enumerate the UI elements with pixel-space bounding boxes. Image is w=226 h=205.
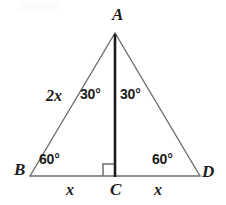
side-label-bc: x — [66, 182, 74, 198]
side-label-ab: 2x — [46, 88, 62, 104]
geometry-diagram: A B C D 30° 30° 60° 60° 2x x x — [0, 0, 226, 205]
vertex-label-d: D — [202, 163, 214, 180]
vertex-label-a: A — [112, 6, 123, 23]
vertex-label-b: B — [14, 161, 25, 178]
vertex-label-c: C — [110, 181, 121, 198]
side-label-cd: x — [154, 182, 162, 198]
angle-label-abc: 60° — [39, 152, 60, 166]
angle-label-adc: 60° — [152, 152, 173, 166]
triangle-figure — [0, 0, 226, 205]
angle-label-cad: 30° — [120, 87, 141, 101]
angle-label-bac: 30° — [80, 87, 101, 101]
right-angle-mark — [103, 164, 114, 176]
